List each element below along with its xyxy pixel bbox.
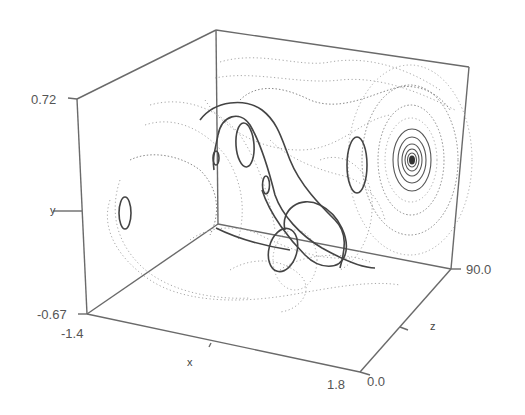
trajectory <box>119 103 375 275</box>
z-axis-label: z <box>430 320 436 332</box>
plot-box <box>77 30 469 372</box>
x-min-label: -1.4 <box>61 326 83 341</box>
y-min-label: -0.67 <box>37 307 67 322</box>
y-max-label: 0.72 <box>31 92 56 107</box>
z-min-label: 0.0 <box>367 374 385 389</box>
x-max-label: 1.8 <box>327 377 345 392</box>
projection-contours <box>107 58 455 312</box>
y-axis-label: y <box>50 204 56 216</box>
3d-plot: 0.72 -0.67 -1.4 1.8 0.0 90.0 y x z <box>0 0 525 415</box>
z-max-label: 90.0 <box>466 262 491 277</box>
x-axis-label: x <box>187 356 193 368</box>
